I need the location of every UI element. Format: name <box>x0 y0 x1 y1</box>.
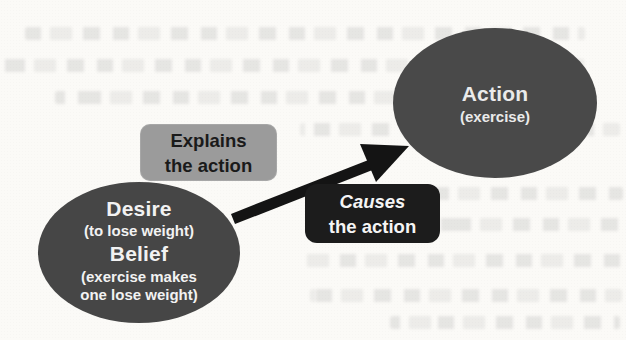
action-ellipse: Action (exercise) <box>393 28 597 178</box>
arrow-head <box>360 144 409 182</box>
bleed-through-artifact <box>300 254 622 267</box>
explains-box: Explains the action <box>140 124 277 181</box>
desire-label: Desire <box>106 196 171 222</box>
bleed-through-artifact <box>433 187 623 200</box>
causes-line1: Causes <box>340 189 406 214</box>
desire-detail: (to lose weight) <box>84 222 194 240</box>
explains-line2: the action <box>165 153 252 178</box>
causes-line2: the action <box>329 214 416 239</box>
explains-line1: Explains <box>170 128 246 153</box>
bleed-through-artifact <box>310 289 622 302</box>
belief-detail-line1: (exercise makes <box>81 268 197 286</box>
bleed-through-artifact <box>433 218 623 231</box>
bleed-through-artifact <box>390 316 620 329</box>
belief-label: Belief <box>110 240 168 268</box>
belief-detail-line2: one lose weight) <box>80 286 198 304</box>
action-label: Action <box>462 81 529 107</box>
desire-belief-ellipse: Desire (to lose weight) Belief (exercise… <box>38 182 240 323</box>
scanned-page-figure: Desire (to lose weight) Belief (exercise… <box>0 0 626 340</box>
action-detail: (exercise) <box>460 107 530 126</box>
causes-box: Causes the action <box>305 184 440 243</box>
